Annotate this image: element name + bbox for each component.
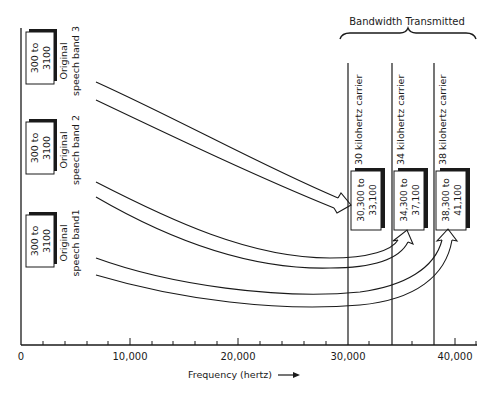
tick-label-0: 0 bbox=[18, 351, 24, 362]
carrier-label-34k: 34 kilohertz carrier bbox=[395, 75, 406, 165]
input-band-3: 300 to 3100 Original speech band 3 bbox=[26, 26, 81, 96]
band3-range-bottom: 3100 bbox=[41, 46, 52, 70]
input-band-2: 300 to 3100 Original speech band 2 bbox=[26, 115, 81, 185]
output-band-34k: 34,300 to 37,100 bbox=[394, 168, 428, 230]
output-30k-range-top: 30,300 to bbox=[356, 178, 366, 222]
band3-label-line1: Original bbox=[58, 42, 69, 79]
band3-label-line2: speech band 3 bbox=[70, 26, 81, 96]
x-axis-title: Frequency (hertz) bbox=[188, 369, 272, 380]
band1-range-top: 300 to bbox=[29, 225, 40, 256]
arrow-band3-to-30k bbox=[96, 82, 351, 213]
output-38k-range-top: 38,300 to bbox=[441, 178, 451, 222]
carrier-label-30k: 30 kilohertz carrier bbox=[353, 75, 364, 165]
output-30k-range-bottom: 33,100 bbox=[368, 184, 378, 216]
bandwidth-transmitted-label: Bandwidth Transmitted bbox=[349, 16, 465, 27]
band1-label-line2: speech band1 bbox=[70, 210, 81, 277]
band2-range-top: 300 to bbox=[29, 132, 40, 163]
band1-label-line1: Original bbox=[58, 224, 69, 261]
output-38k-range-bottom: 41,100 bbox=[453, 184, 463, 216]
tick-label-20000: 20,000 bbox=[221, 351, 256, 362]
brace-icon bbox=[340, 28, 476, 39]
output-band-38k: 38,300 to 41,100 bbox=[436, 168, 470, 230]
tick-label-40000: 40,000 bbox=[438, 351, 473, 362]
tick-label-30000: 30,000 bbox=[331, 351, 366, 362]
arrow-band1-to-38k bbox=[96, 229, 457, 307]
band2-label-line1: Original bbox=[58, 131, 69, 168]
output-34k-range-top: 34,300 to bbox=[399, 178, 409, 222]
output-band-30k: 30,300 to 33,100 bbox=[351, 168, 385, 230]
carrier-label-38k: 38 kilohertz carrier bbox=[437, 75, 448, 165]
x-axis-ticks bbox=[43, 338, 476, 345]
arrow-right-icon bbox=[278, 372, 300, 378]
output-34k-range-bottom: 37,100 bbox=[411, 184, 421, 216]
fdm-diagram: 0 10,000 20,000 30,000 40,000 Frequency … bbox=[0, 0, 493, 395]
band3-range-top: 300 to bbox=[29, 42, 40, 73]
band2-label-line2: speech band 2 bbox=[70, 115, 81, 185]
tick-label-10000: 10,000 bbox=[113, 351, 148, 362]
input-band-1: 300 to 3100 Original speech band1 bbox=[26, 210, 81, 277]
band2-range-bottom: 3100 bbox=[41, 136, 52, 160]
band1-range-bottom: 3100 bbox=[41, 229, 52, 253]
